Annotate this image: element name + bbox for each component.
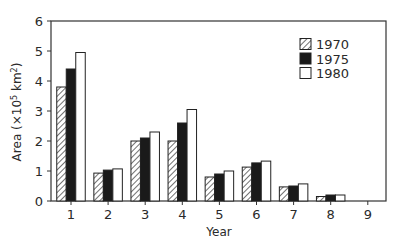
x-tick-label: 1 bbox=[67, 207, 75, 222]
y-tick-label: 5 bbox=[35, 44, 43, 59]
x-axis-ticks: 123456789 bbox=[67, 201, 372, 222]
bar-1980-7 bbox=[298, 184, 308, 201]
x-tick-label: 6 bbox=[252, 207, 260, 222]
bar-1975-6 bbox=[252, 163, 262, 201]
x-tick-label: 4 bbox=[178, 207, 186, 222]
y-axis-ticks: 0123456 bbox=[35, 14, 51, 209]
y-tick-label: 0 bbox=[35, 194, 43, 209]
y-tick-label: 6 bbox=[35, 14, 43, 29]
bar-1970-4 bbox=[168, 141, 178, 201]
legend-swatch-1980 bbox=[300, 68, 311, 79]
bar-1975-3 bbox=[140, 138, 150, 201]
bar-1980-3 bbox=[150, 132, 160, 201]
bar-1970-2 bbox=[94, 173, 104, 201]
x-tick-label: 9 bbox=[364, 207, 372, 222]
y-tick-label: 1 bbox=[35, 164, 43, 179]
bar-1980-1 bbox=[76, 53, 86, 202]
legend: 197019751980 bbox=[300, 37, 349, 81]
bar-1975-5 bbox=[215, 174, 225, 201]
bar-1975-2 bbox=[103, 170, 113, 201]
bar-1975-8 bbox=[326, 195, 336, 201]
bar-chart: 0123456 123456789 197019751980 Year Area… bbox=[0, 0, 405, 250]
bar-1970-5 bbox=[205, 177, 215, 201]
bar-1970-6 bbox=[242, 167, 252, 201]
x-tick-label: 7 bbox=[289, 207, 297, 222]
bar-1970-8 bbox=[316, 197, 326, 202]
y-axis-label: Area (×105 km2) bbox=[10, 63, 25, 162]
y-tick-label: 4 bbox=[35, 74, 43, 89]
x-tick-label: 8 bbox=[327, 207, 335, 222]
bar-1980-2 bbox=[113, 169, 123, 201]
bar-1980-4 bbox=[187, 110, 197, 202]
bar-1970-1 bbox=[57, 87, 67, 201]
bar-1980-5 bbox=[224, 171, 234, 201]
bar-1970-7 bbox=[279, 187, 289, 201]
x-tick-label: 5 bbox=[215, 207, 223, 222]
bar-1980-8 bbox=[335, 195, 345, 201]
legend-label-1970: 1970 bbox=[316, 37, 349, 52]
bar-1975-7 bbox=[289, 186, 299, 201]
legend-swatch-1970 bbox=[300, 39, 311, 50]
bar-1980-6 bbox=[261, 161, 271, 201]
x-axis-label: Year bbox=[205, 225, 231, 239]
bar-1975-4 bbox=[178, 123, 188, 201]
bar-1970-3 bbox=[131, 141, 141, 201]
legend-label-1975: 1975 bbox=[316, 52, 349, 67]
legend-label-1980: 1980 bbox=[316, 66, 349, 81]
x-tick-label: 3 bbox=[141, 207, 149, 222]
x-tick-label: 2 bbox=[104, 207, 112, 222]
y-tick-label: 3 bbox=[35, 104, 43, 119]
legend-swatch-1975 bbox=[300, 53, 311, 64]
y-tick-label: 2 bbox=[35, 134, 43, 149]
bar-1975-1 bbox=[66, 69, 76, 201]
